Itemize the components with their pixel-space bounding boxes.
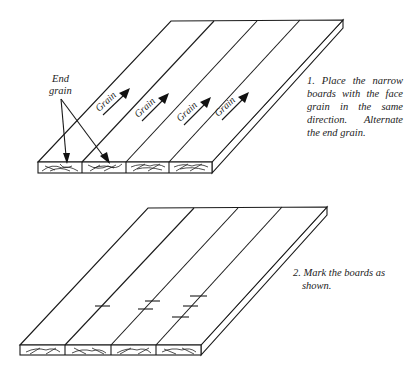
panel-1-top-surface: [38, 20, 343, 162]
end-grain-label-line1: End: [51, 73, 70, 84]
step-1-caption: 1. Place the narrow boards with the face…: [307, 74, 403, 139]
figure-2-marked-panel: [20, 207, 327, 355]
panel-2-top-surface: [20, 207, 327, 345]
step-2-caption-line2: shown.: [293, 279, 403, 292]
figure-1-glued-panel: End grain Grain Grain Grain: [38, 20, 343, 173]
step-2-caption: 2. Mark the boards as shown.: [293, 266, 403, 292]
step-2-caption-line1: 2. Mark the boards as: [293, 266, 403, 279]
diagram-canvas: End grain Grain Grain Grain: [0, 0, 417, 372]
end-grain-label-line2: grain: [49, 85, 72, 96]
